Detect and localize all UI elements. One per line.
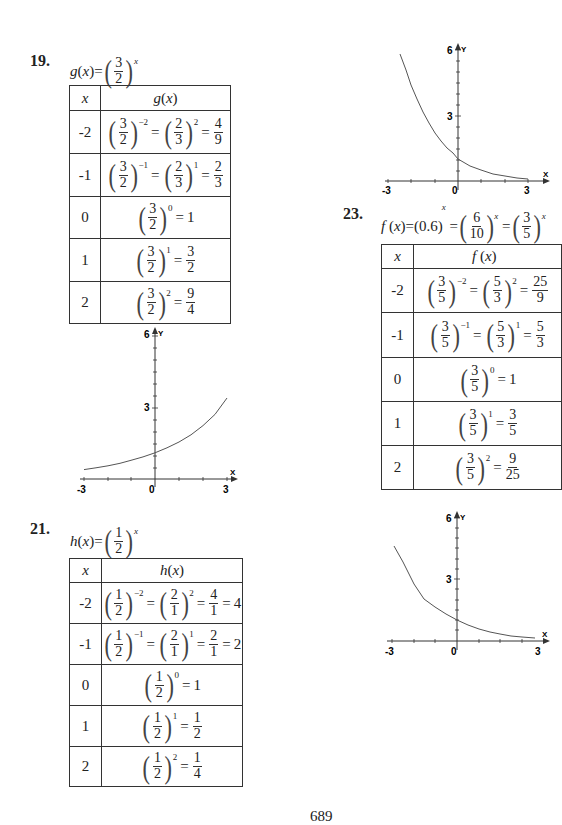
graph-h: 6 Y 3 X -3 0 3 <box>380 40 554 200</box>
table-row: 0 (12)0=1 <box>70 665 243 706</box>
x-tick-3: 3 <box>535 646 541 657</box>
x-axis-label: X <box>230 468 236 477</box>
cell-expr: (32)−1= (23)1= 23 <box>101 154 231 197</box>
values-table-h: x h(x) -2 (12)−2= (21)2= 41=4 -1 (12)−1=… <box>69 558 243 787</box>
y-tick-3: 3 <box>144 402 150 413</box>
table-header-row: x g(x) <box>70 86 231 111</box>
x-axis-label: X <box>542 630 548 639</box>
curve-h <box>400 54 528 179</box>
cell-x: -2 <box>70 111 101 154</box>
cell-expr: (32)−2= (23)2= 49 <box>101 111 231 154</box>
y-tick-6: 6 <box>447 45 453 56</box>
header-x: x <box>70 559 102 583</box>
cell-x: 1 <box>70 706 102 747</box>
cell-x: -1 <box>382 313 414 358</box>
header-gx: g(x) <box>101 86 231 111</box>
function-definition-g: g(x)= (32)x <box>70 55 138 87</box>
x-tick-0: 0 <box>452 185 458 196</box>
x-tick-0: 0 <box>149 484 155 495</box>
header-fx: f (x) <box>414 245 562 269</box>
table-row: 2 (32)2= 94 <box>70 282 231 324</box>
x-tick-3: 3 <box>524 185 530 196</box>
header-x: x <box>70 86 101 111</box>
table-row: -1 (35)−1= (53)1= 53 <box>382 313 562 358</box>
y-tick-3: 3 <box>446 574 452 585</box>
table-row: -1 (12)−1= (21)1= 21=2 <box>70 624 243 665</box>
problem-number-21: 21. <box>30 520 50 538</box>
table-row: 1 (12)1= 12 <box>70 706 243 747</box>
y-tick-6: 6 <box>446 513 452 524</box>
cell-expr: (35)2= 925 <box>414 446 562 490</box>
cell-x: 2 <box>70 747 102 787</box>
table-row: -2 (12)−2= (21)2= 41=4 <box>70 583 243 624</box>
cell-expr: (35)1= 35 <box>414 402 562 446</box>
values-table-g: x g(x) -2 (32)−2= (23)2= 49 -1 (32)−1= (… <box>69 85 231 324</box>
cell-expr: (12)−1= (21)1= 21=2 <box>102 624 243 665</box>
page-number: 689 <box>310 808 333 825</box>
table-row: 1 (35)1= 35 <box>382 402 562 446</box>
x-tick-neg3: -3 <box>385 646 394 657</box>
table-row: -2 (35)−2= (53)2= 259 <box>382 269 562 313</box>
cell-expr: (32)2= 94 <box>101 282 231 324</box>
values-table-f: x f (x) -2 (35)−2= (53)2= 259 -1 (35)−1=… <box>381 244 562 490</box>
table-header-row: x h(x) <box>70 559 243 583</box>
cell-x: -2 <box>70 583 102 624</box>
y-axis-label: Y <box>461 45 467 54</box>
table-row: 0 (32)0=1 <box>70 197 231 239</box>
table-header-row: x f (x) <box>382 245 562 269</box>
cell-x: 0 <box>70 665 102 706</box>
header-hx: h(x) <box>102 559 243 583</box>
cell-expr: (12)2= 14 <box>102 747 243 787</box>
cell-x: 1 <box>382 402 414 446</box>
cell-x: -1 <box>70 154 101 197</box>
graph-f: 6 Y 3 X -3 0 3 <box>380 508 554 663</box>
table-row: 0 (35)0=1 <box>382 358 562 402</box>
y-tick-3: 3 <box>447 111 453 122</box>
cell-expr: (35)−1= (53)1= 53 <box>414 313 562 358</box>
cell-x: -2 <box>382 269 414 313</box>
cell-expr: (35)0=1 <box>414 358 562 402</box>
cell-x: 1 <box>70 239 101 282</box>
table-row: -2 (32)−2= (23)2= 49 <box>70 111 231 154</box>
cell-x: 2 <box>382 446 414 490</box>
header-x: x <box>382 245 414 269</box>
cell-x: 0 <box>382 358 414 402</box>
cell-x: 0 <box>70 197 101 239</box>
y-axis-label: Y <box>158 329 164 338</box>
table-row: 2 (35)2= 925 <box>382 446 562 490</box>
cell-expr: (35)−2= (53)2= 259 <box>414 269 562 313</box>
y-axis-label: Y <box>460 513 466 522</box>
cell-expr: (12)0=1 <box>102 665 243 706</box>
x-tick-neg3: -3 <box>382 185 391 196</box>
x-tick-0: 0 <box>451 646 457 657</box>
cell-expr: (12)−2= (21)2= 41=4 <box>102 583 243 624</box>
x-tick-neg3: -3 <box>77 484 86 495</box>
cell-expr: (32)1= 32 <box>101 239 231 282</box>
table-row: -1 (32)−1= (23)1= 23 <box>70 154 231 197</box>
x-axis-label: X <box>543 170 549 179</box>
curve-f <box>394 546 535 638</box>
cell-expr: (32)0=1 <box>101 197 231 239</box>
cell-x: -1 <box>70 624 102 665</box>
cell-x: 2 <box>70 282 101 324</box>
problem-number-23: 23. <box>343 205 363 223</box>
function-definition-h: h(x)= (12)x <box>70 525 138 557</box>
table-row: 1 (32)1= 32 <box>70 239 231 282</box>
table-row: 2 (12)2= 14 <box>70 747 243 787</box>
graph-g: 6 Y 3 X -3 0 3 <box>70 325 250 500</box>
x-tick-3: 3 <box>223 484 229 495</box>
function-definition-f: f (x)=(0.6)x = (610)x = (35)x <box>381 210 546 242</box>
problem-number-19: 19. <box>30 52 50 70</box>
y-tick-6: 6 <box>144 329 150 340</box>
cell-expr: (12)1= 12 <box>102 706 243 747</box>
